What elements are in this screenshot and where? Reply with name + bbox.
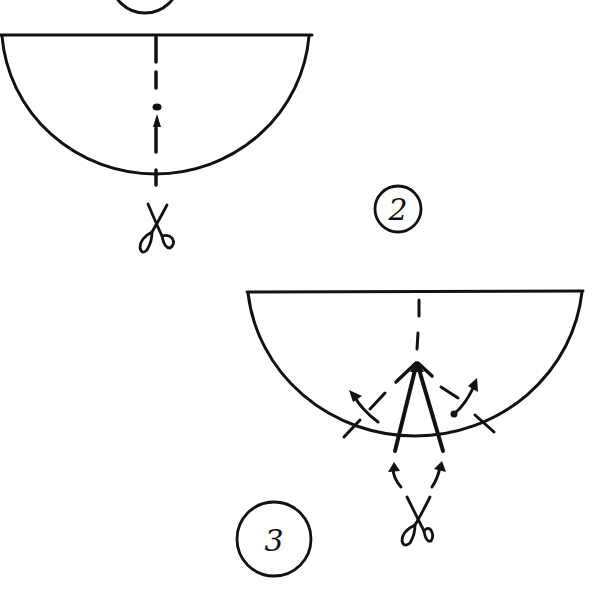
semicircle-figure-2 xyxy=(247,291,583,451)
scissors-icon xyxy=(402,497,433,545)
fold-line-left xyxy=(344,393,385,437)
fold-line-right xyxy=(441,387,494,432)
step-2-label: 2 xyxy=(387,192,407,227)
cut-arrow-left-icon xyxy=(388,462,401,487)
instruction-diagram: 2 xyxy=(0,0,592,595)
fold-arrow-right-icon xyxy=(451,378,479,418)
v-cut-lines xyxy=(395,361,443,451)
scissors-icon xyxy=(140,204,174,252)
cut-arrow-right-icon xyxy=(432,461,446,487)
step-1-marker xyxy=(112,0,178,13)
step-3-label: 3 xyxy=(264,523,283,558)
step-3-marker: 3 xyxy=(237,502,311,576)
dashed-center-line xyxy=(417,300,419,349)
cut-arrow-up-icon xyxy=(153,104,162,128)
semicircle-figure-1 xyxy=(0,35,312,185)
step-2-marker: 2 xyxy=(375,186,421,232)
